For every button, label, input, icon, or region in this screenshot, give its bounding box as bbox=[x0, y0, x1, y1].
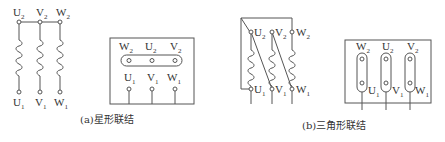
delta-box-terminal-u1 bbox=[360, 81, 364, 85]
delta-box-terminal-v2 bbox=[408, 57, 412, 61]
delta-terminal-v1 bbox=[270, 87, 274, 91]
delta-label-top-1: V2 bbox=[275, 26, 287, 41]
delta-return-loop bbox=[241, 18, 250, 89]
delta-box-top-1: U2 bbox=[382, 40, 394, 55]
delta-winding-w bbox=[289, 32, 295, 89]
box-terminal-v2 bbox=[173, 59, 177, 63]
box-terminal-w2 bbox=[127, 59, 131, 63]
star-label-bottom-1: V1 bbox=[35, 96, 47, 111]
caption-delta: (b)三角形联结 bbox=[302, 119, 366, 131]
delta-label-top-2: W2 bbox=[296, 26, 310, 41]
delta-box-terminal-w1 bbox=[408, 81, 412, 85]
delta-terminal-v2 bbox=[270, 30, 274, 34]
star-label-top-1: V2 bbox=[36, 6, 48, 21]
winding-u bbox=[16, 22, 22, 91]
delta-box-bottom-2: W1 bbox=[415, 84, 429, 99]
delta-box-bottom-1: V1 bbox=[392, 84, 404, 99]
star-box-top-1: U2 bbox=[145, 40, 157, 55]
caption-star: (a)星形联结 bbox=[80, 113, 134, 125]
terminal-w1 bbox=[58, 90, 62, 94]
terminal-w2 bbox=[58, 20, 62, 24]
delta-box-terminal-v1 bbox=[384, 81, 388, 85]
star-box-bottom-1: V1 bbox=[147, 71, 159, 86]
delta-winding-v bbox=[269, 32, 275, 89]
delta-terminal-w1 bbox=[290, 87, 294, 91]
delta-label-bottom-2: W1 bbox=[296, 83, 310, 98]
terminal-v1 bbox=[38, 90, 42, 94]
delta-terminal-box: W2 U2 V2 U1 V1 W1 bbox=[345, 40, 431, 110]
box-terminal-u2 bbox=[150, 59, 154, 63]
delta-terminal-u1 bbox=[249, 87, 253, 91]
delta-label-top-0: U2 bbox=[254, 26, 266, 41]
star-box-bottom-0: U1 bbox=[124, 71, 136, 86]
star-label-top-0: U2 bbox=[13, 6, 25, 21]
box-terminal-w1 bbox=[173, 87, 177, 91]
delta-terminal-w2 bbox=[290, 30, 294, 34]
star-label-bottom-2: W1 bbox=[54, 96, 68, 111]
star-box-top-2: V2 bbox=[170, 40, 182, 55]
delta-box-bottom-0: U1 bbox=[368, 84, 380, 99]
delta-winding-u bbox=[248, 32, 254, 89]
star-label-bottom-0: U1 bbox=[13, 96, 25, 111]
winding-v bbox=[37, 22, 43, 91]
motor-connection-diagram: U2 V2 W2 U1 V1 W1 bbox=[0, 0, 445, 142]
winding-w bbox=[57, 22, 63, 91]
box-terminal-v1 bbox=[150, 87, 154, 91]
star-label-top-2: W2 bbox=[56, 6, 70, 21]
delta-label-bottom-0: U1 bbox=[254, 83, 266, 98]
terminal-u1 bbox=[17, 90, 21, 94]
delta-schematic: U2 V2 W2 U1 V1 W1 bbox=[241, 18, 310, 104]
delta-terminal-u2 bbox=[249, 30, 253, 34]
terminal-v2 bbox=[38, 20, 42, 24]
delta-box-terminal-w2 bbox=[360, 57, 364, 61]
box-terminal-u1 bbox=[127, 87, 131, 91]
star-box-top-0: W2 bbox=[119, 40, 133, 55]
star-schematic: U2 V2 W2 U1 V1 W1 bbox=[13, 6, 70, 111]
star-terminal-box: W2 U2 V2 U1 V1 W1 bbox=[110, 38, 194, 104]
star-box-bottom-2: W1 bbox=[167, 71, 181, 86]
terminal-u2 bbox=[17, 20, 21, 24]
delta-box-terminal-u2 bbox=[384, 57, 388, 61]
delta-label-bottom-1: V1 bbox=[275, 83, 287, 98]
